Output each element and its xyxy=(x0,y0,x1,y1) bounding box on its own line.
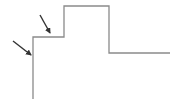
step-diagram xyxy=(0,0,178,104)
arrow-icon xyxy=(40,15,50,33)
arrow-icon xyxy=(13,41,31,55)
step-profile-line xyxy=(33,6,170,99)
